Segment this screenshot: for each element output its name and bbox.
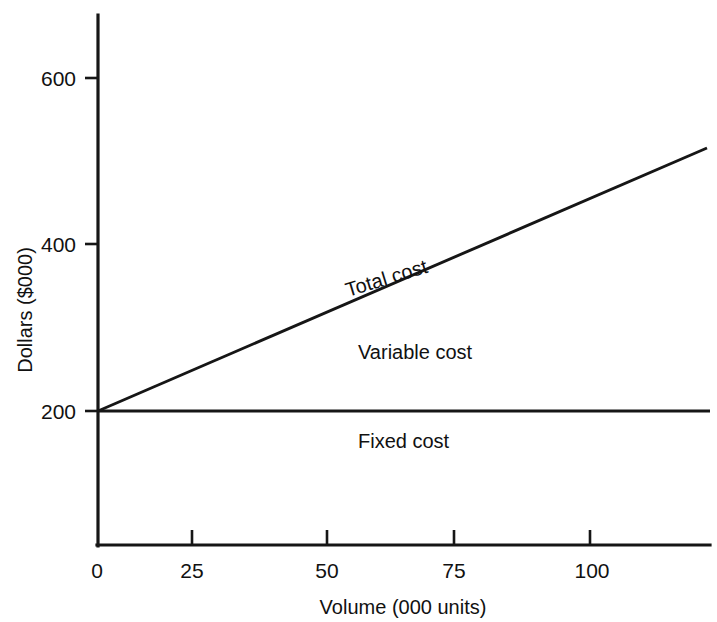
annotation-variable-cost: Variable cost: [358, 341, 473, 363]
series-annotations: Total cost Variable cost Fixed cost: [343, 255, 473, 452]
y-axis-tick-labels: 200 400 600: [41, 67, 76, 423]
x-tick-label-25: 25: [180, 559, 203, 582]
chart-canvas: 200 400 600 0 25 50 75 100 Total: [0, 0, 717, 622]
x-tick-label-100: 100: [574, 559, 609, 582]
y-axis-title: Dollars ($000): [14, 247, 36, 373]
x-tick-label-50: 50: [315, 559, 338, 582]
y-tick-label-400: 400: [41, 233, 76, 256]
y-tick-label-600: 600: [41, 67, 76, 90]
annotation-total-cost: Total cost: [343, 255, 431, 301]
annotation-fixed-cost: Fixed cost: [358, 430, 450, 452]
x-tick-label-75: 75: [442, 559, 465, 582]
x-tick-label-0: 0: [91, 559, 103, 582]
cost-volume-chart: 200 400 600 0 25 50 75 100 Total: [0, 0, 717, 622]
y-tick-label-200: 200: [41, 400, 76, 423]
x-axis-tick-labels: 0 25 50 75 100: [91, 559, 609, 582]
x-axis-title: Volume (000 units): [320, 596, 487, 618]
